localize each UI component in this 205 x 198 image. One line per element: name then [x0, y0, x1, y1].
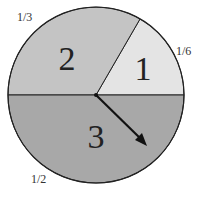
- spinner-diagram: 1 2 3: [0, 0, 205, 198]
- fraction-label-1: 1/6: [176, 44, 191, 59]
- sector-2-label: 2: [59, 40, 76, 77]
- fraction-label-3: 1/2: [31, 172, 46, 187]
- sector-3-label: 3: [88, 118, 105, 155]
- fraction-label-2: 1/3: [17, 10, 32, 25]
- sector-1-label: 1: [135, 50, 152, 87]
